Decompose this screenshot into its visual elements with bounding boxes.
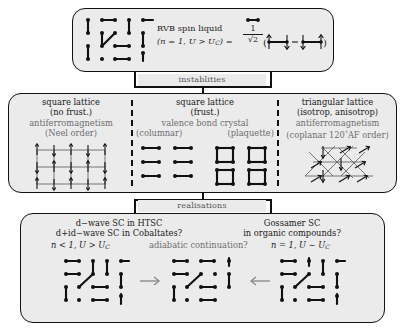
col2-title-1: square lattice (133, 97, 277, 107)
singlet-spin-expression: ( ) (263, 31, 329, 53)
figure-canvas: RVB spin liquid (n = 1, U > UC) = 1 √2 ( (0, 0, 405, 329)
rvb-label-condition: (n = 1, U > UC) = (157, 36, 233, 49)
connector-right-stem-1 (270, 72, 272, 86)
col1-title-4: (Neel order) (11, 128, 131, 138)
connector-right-stem-2 (270, 199, 272, 214)
bottom-left-line-2: d+id−wave SC in Cobaltates? (29, 228, 209, 238)
column-square-frustrated: square lattice (frust.) valence bond cry… (133, 97, 277, 139)
arrow-left-icon (247, 274, 271, 288)
bottom-condition-left: n < 1, U > UC (51, 240, 110, 252)
columnar-vbc-diagram (137, 142, 201, 190)
col1-title-2: (no frust.) (11, 107, 131, 117)
bottom-left-line-1: d−wave SC in HTSC (29, 218, 209, 228)
bottom-dimer-diagram-3 (275, 254, 349, 312)
connector-left-stem-2 (134, 199, 136, 214)
rvb-spin-liquid-panel: RVB spin liquid (n = 1, U > UC) = 1 √2 ( (72, 8, 334, 72)
rvb-dimer-lattice-diagram (81, 13, 155, 69)
connector-left-stem-1 (134, 72, 136, 86)
svg-text:(: ( (263, 37, 267, 48)
svg-text:): ) (323, 37, 327, 48)
bottom-right-line-2: in organic compounds? (206, 228, 378, 238)
column-square-no-frustration: square lattice (no frust.) antiferromagn… (11, 97, 131, 139)
bottom-dimer-diagram-2 (167, 254, 241, 312)
col3-title-2: (isotrop, anisotrop) (279, 107, 396, 117)
neel-order-lattice-diagram (31, 142, 113, 190)
plaquette-vbc-diagram (211, 142, 275, 190)
col2-sub-columnar: (columnar) (136, 128, 182, 138)
col3-title-4: (coplanar 120°AF order) (279, 128, 396, 140)
connector-drop-1 (202, 86, 204, 93)
col3-title-1: triangular lattice (279, 97, 396, 107)
col1-title-1: square lattice (11, 97, 131, 107)
bottom-dimer-diagram-1 (59, 254, 133, 312)
col3-title-3: antiferromagnetism (279, 118, 396, 128)
triangular-120-af-diagram (297, 142, 381, 190)
col1-title-3: antiferromagnetism (11, 118, 131, 128)
bottom-condition-right: n = 1, U ∼ UC (271, 240, 330, 252)
rvb-label-main: RVB spin liquid (157, 23, 222, 34)
column-triangular-lattice: triangular lattice (isotrop, anisotrop) … (279, 97, 396, 141)
col2-title-2: (frust.) (133, 107, 277, 117)
connector-label-instabilities: instablities (138, 74, 266, 86)
bottom-condition-middle: adiabatic continuation? (149, 240, 248, 250)
col2-title-3: valence bond crystal (133, 118, 277, 128)
one-over-sqrt-two: 1 √2 (243, 25, 263, 44)
connector-label-realisations: realisations (138, 200, 266, 212)
arrow-right-icon (139, 274, 163, 288)
rvb-equation: RVB spin liquid (n = 1, U > UC) = 1 √2 ( (157, 15, 329, 67)
col2-sub-plaquette: (plaquette) (227, 128, 274, 138)
realisations-panel: d−wave SC in HTSC d+id−wave SC in Cobalt… (20, 213, 385, 323)
instabilities-panel: square lattice (no frust.) antiferromagn… (8, 93, 397, 193)
bottom-right-line-1: Gossamer SC (206, 218, 378, 228)
